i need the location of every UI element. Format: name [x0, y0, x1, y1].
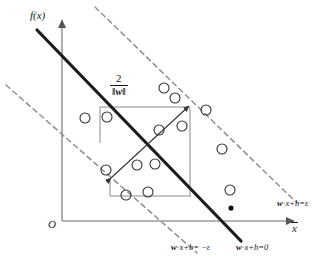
- margin-numerator: 2: [110, 73, 128, 86]
- data-point-group: [80, 83, 235, 210]
- y-axis-label: f(x): [30, 10, 45, 21]
- margin-bracket-group: [100, 107, 191, 196]
- data-point-open: [225, 185, 235, 195]
- equation-label-decision-boundary: w·x+b=0: [236, 243, 268, 252]
- data-point-open: [121, 190, 131, 200]
- data-point-open: [102, 112, 112, 122]
- data-point-open: [201, 105, 211, 115]
- data-point-open: [217, 144, 227, 154]
- equation-remainder: x+b=0: [245, 242, 269, 252]
- data-point-open: [150, 159, 160, 169]
- data-point-open: [159, 83, 169, 93]
- margin-width-label: 2 ‖w‖: [110, 73, 128, 97]
- svm-margin-figure: f(x) x O 2 ‖w‖ w·x+b=ε w·x+b= −ε w·x+b=0: [0, 0, 331, 265]
- x-axis-label: x: [291, 222, 298, 234]
- data-point-open: [170, 93, 180, 103]
- equation-remainder: x+b= −ε: [180, 242, 211, 252]
- x-axis-label-text: x: [291, 222, 298, 234]
- data-point-open: [177, 121, 187, 131]
- equation-label-upper-margin: w·x+b=ε: [277, 199, 308, 208]
- axis-group: [62, 20, 294, 221]
- margin-hyperplane-upper: [95, 7, 297, 203]
- origin-label: O: [48, 219, 56, 230]
- data-point-open: [80, 113, 90, 123]
- data-point-open: [132, 160, 142, 170]
- equation-remainder: x+b=ε: [286, 198, 309, 208]
- data-point-filled: [229, 206, 233, 210]
- equation-label-lower-margin: w·x+b= −ε: [171, 243, 210, 252]
- margin-denominator: ‖w‖: [110, 86, 128, 97]
- decision-boundary-line: [37, 30, 241, 241]
